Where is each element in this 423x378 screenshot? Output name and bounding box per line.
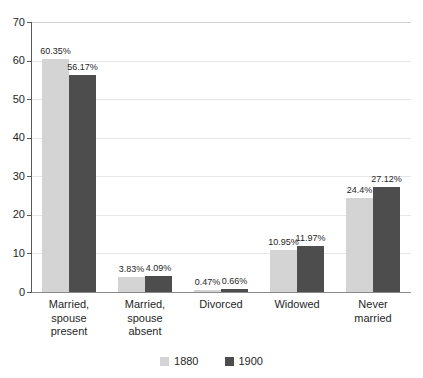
bar-1900-0[interactable] [69, 75, 96, 292]
bar-value-label: 0.66% [213, 277, 256, 286]
chart-title [0, 0, 423, 8]
legend-item-1900[interactable]: 1900 [225, 356, 263, 367]
bar-chart: 706050403020100 60.35%56.17%3.83%4.09%0.… [0, 0, 423, 378]
bar-1900-4[interactable] [373, 187, 400, 292]
y-axis-tick [27, 253, 31, 254]
y-axis-tick-label-wrap: 50 [0, 94, 25, 105]
y-axis-tick-label: 70 [1, 17, 25, 28]
legend-label: 1880 [174, 356, 198, 367]
bar-1900-1[interactable] [145, 276, 172, 292]
y-axis-tick [27, 176, 31, 177]
chart-legend: 18801900 [0, 356, 423, 367]
y-axis-tick [27, 61, 31, 62]
bar-value-label: 11.97% [289, 234, 332, 243]
bar-1900-2[interactable] [221, 289, 248, 292]
y-axis-tick-label-wrap: 20 [0, 209, 25, 220]
legend-item-1880[interactable]: 1880 [160, 356, 198, 367]
y-axis-tick-label-wrap: 70 [0, 17, 25, 28]
y-axis-tick-label: 10 [1, 248, 25, 259]
gridline [31, 292, 411, 293]
bar-value-label: 56.17% [61, 63, 104, 72]
y-axis-tick-label-wrap: 10 [0, 248, 25, 259]
x-axis-category-label: Married, spouse absent [107, 298, 183, 339]
legend-label: 1900 [239, 356, 263, 367]
y-axis-tick-label-wrap: 40 [0, 132, 25, 143]
bar-value-label: 60.35% [34, 47, 77, 56]
y-axis-tick [27, 22, 31, 23]
legend-swatch-icon [160, 357, 169, 366]
y-axis-tick-label: 30 [1, 171, 25, 182]
x-axis-category-label: Married, spouse present [31, 298, 107, 339]
x-axis-category-label: Never married [335, 298, 411, 325]
y-axis-tick-label: 40 [1, 132, 25, 143]
bar-value-label: 4.09% [137, 264, 180, 273]
bar-1900-3[interactable] [297, 246, 324, 292]
y-axis-tick-label: 20 [1, 209, 25, 220]
y-axis-tick-label: 0 [1, 287, 25, 298]
x-axis-category-label: Divorced [183, 298, 259, 312]
bar-1880-2[interactable] [194, 290, 221, 292]
bar-1880-1[interactable] [118, 277, 145, 292]
y-axis-tick-label: 50 [1, 94, 25, 105]
y-axis-line [31, 22, 32, 293]
bar-1880-0[interactable] [42, 59, 69, 292]
y-axis-tick-label-wrap: 30 [0, 171, 25, 182]
legend-swatch-icon [225, 357, 234, 366]
gridline [31, 22, 411, 23]
bar-1880-3[interactable] [270, 250, 297, 292]
y-axis-tick [27, 292, 31, 293]
y-axis-tick-label-wrap: 60 [0, 55, 25, 66]
y-axis-tick-label: 60 [1, 55, 25, 66]
y-axis-tick [27, 215, 31, 216]
y-axis-tick [27, 138, 31, 139]
bar-1880-4[interactable] [346, 198, 373, 292]
bar-value-label: 27.12% [365, 175, 408, 184]
y-axis-tick-label-wrap: 0 [0, 287, 25, 298]
y-axis-tick [27, 99, 31, 100]
x-axis-category-label: Widowed [259, 298, 335, 312]
